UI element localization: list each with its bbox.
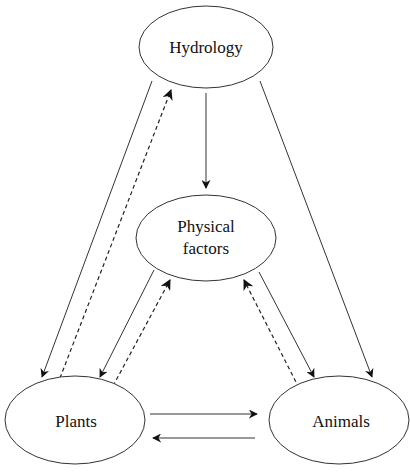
node-hydrology: Hydrology	[139, 6, 273, 88]
node-label-plants: Plants	[55, 412, 97, 431]
edge-hydrology-to-animals	[260, 81, 372, 377]
node-label-animals: Animals	[312, 412, 370, 431]
node-label-physical: Physical	[177, 217, 235, 236]
edge-hydrology-to-plants	[42, 81, 152, 377]
node-plants: Plants	[5, 376, 145, 464]
node-label-hydrology: Hydrology	[169, 38, 243, 57]
ecosystem-diagram: Hydrology Physical factors Plants Animal…	[0, 0, 410, 472]
node-physical-factors: Physical factors	[136, 195, 276, 281]
node-animals: Animals	[269, 376, 409, 464]
node-label-factors: factors	[183, 239, 229, 258]
edge-plants-to-physical	[113, 280, 170, 386]
